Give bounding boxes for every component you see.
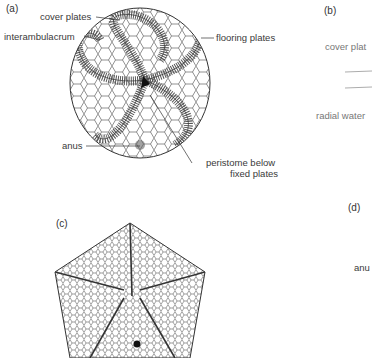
panel-label-b: (b) bbox=[324, 5, 336, 16]
panel-label-d: (d) bbox=[348, 202, 360, 213]
panel-a-theca-drawing bbox=[70, 8, 210, 158]
panel-label-c: (c) bbox=[56, 218, 68, 229]
label-peristome-line2: fixed plates bbox=[230, 168, 278, 179]
panel-c-pentagonal-theca-drawing bbox=[55, 223, 205, 358]
label-cover-plates: cover plates bbox=[40, 11, 91, 22]
label-b-radial-water: radial water bbox=[316, 110, 365, 121]
label-anus: anus bbox=[62, 140, 83, 151]
label-peristome-line1: peristome below bbox=[206, 157, 275, 168]
label-d-anus: anu bbox=[354, 262, 370, 273]
figure-drawings bbox=[0, 0, 372, 358]
label-b-cover-plates: cover plat bbox=[325, 41, 366, 52]
anus-marker bbox=[134, 341, 141, 348]
panel-label-a: (a) bbox=[6, 3, 18, 14]
label-interambulacrum: interambulacrum bbox=[4, 31, 75, 42]
panel-b-partial-drawing bbox=[345, 71, 372, 88]
label-flooring-plates: flooring plates bbox=[216, 32, 275, 43]
